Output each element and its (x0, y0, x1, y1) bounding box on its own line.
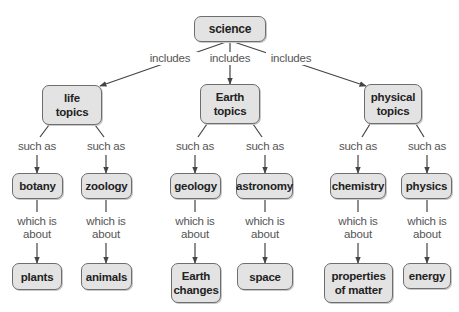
node-earth-changes: Earth changes (171, 263, 221, 303)
link-label-such-as-physics: such as (402, 140, 452, 153)
link-label-includes-life: includes (142, 52, 198, 65)
link-physical-physics-a (416, 124, 424, 137)
node-earth-topics: Earth topics (200, 84, 260, 124)
link-label-such-as-zoology: such as (81, 140, 131, 153)
link-label-which-is-about-matter: which is about (331, 215, 385, 241)
link-label-which-is-about-space: which is about (238, 215, 292, 241)
link-label-such-as-chemistry: such as (333, 140, 383, 153)
node-astronomy: astronomy (236, 173, 293, 199)
link-life-botany-a (40, 125, 49, 137)
link-label-such-as-botany: such as (12, 140, 62, 153)
link-label-such-as-astronomy: such as (240, 140, 290, 153)
link-label-which-is-about-earth-changes: which is about (168, 215, 222, 241)
node-physics: physics (401, 173, 452, 199)
node-properties-of-matter: properties of matter (324, 263, 393, 303)
link-life-zoology-a (95, 125, 104, 137)
link-earth-astronomy-a (253, 124, 262, 137)
node-geology: geology (170, 173, 221, 199)
link-label-includes-earth: includes (205, 52, 255, 65)
node-space: space (237, 263, 293, 290)
node-physical-topics: physical topics (364, 84, 422, 124)
node-zoology: zoology (81, 173, 132, 199)
link-label-includes-physical: includes (266, 52, 316, 65)
link-label-which-is-about-plants: which is about (10, 215, 64, 241)
node-animals: animals (81, 263, 132, 290)
link-label-such-as-geology: such as (170, 140, 220, 153)
node-chemistry: chemistry (330, 173, 386, 199)
node-plants: plants (12, 263, 62, 290)
concept-map: includes includes includes such as such … (0, 0, 459, 312)
node-energy: energy (403, 263, 451, 289)
link-label-which-is-about-animals: which is about (79, 215, 133, 241)
link-label-which-is-about-energy: which is about (400, 215, 454, 241)
node-botany: botany (12, 173, 63, 199)
link-earth-geology-a (198, 124, 207, 137)
link-physical-chemistry-a (362, 124, 370, 137)
node-life-topics: life topics (42, 85, 102, 125)
node-science: science (194, 16, 266, 42)
